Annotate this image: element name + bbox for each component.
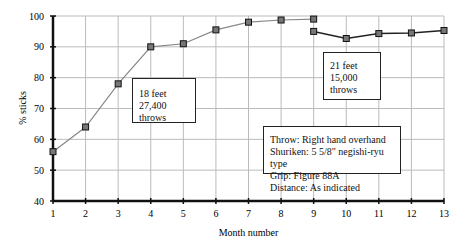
data-point-marker — [343, 36, 349, 42]
annotation-throw-info: Throw: Right hand overhand Shuriken: 5 5… — [263, 126, 401, 174]
y-tick-label: 90 — [34, 41, 44, 52]
data-point-marker — [50, 149, 56, 155]
x-tick-label: 6 — [213, 208, 218, 219]
y-tick-label: 80 — [34, 72, 44, 83]
x-tick-label: 4 — [148, 208, 153, 219]
data-point-marker — [213, 27, 219, 33]
x-tick-label: 11 — [374, 208, 384, 219]
data-point-marker — [148, 44, 154, 50]
x-tick-label: 12 — [406, 208, 416, 219]
annotation-line: 15,000 — [330, 72, 374, 84]
x-axis-label: Month number — [219, 227, 279, 238]
x-tick-label: 13 — [439, 208, 449, 219]
y-tick-label: 50 — [34, 165, 44, 176]
y-tick-label: 40 — [34, 196, 44, 207]
data-point-marker — [246, 19, 252, 25]
data-point-marker — [408, 30, 414, 36]
annotation-line: Shuriken: 5 5/8" negishi-ryu type — [270, 146, 394, 170]
y-tick-label: 60 — [34, 134, 44, 145]
data-point-marker — [278, 17, 284, 23]
x-tick-label: 9 — [311, 208, 316, 219]
data-point-marker — [115, 81, 121, 87]
x-tick-label: 3 — [116, 208, 121, 219]
annotation-line: Throw: Right hand overhand — [270, 134, 394, 146]
x-tick-label: 10 — [341, 208, 351, 219]
x-tick-label: 7 — [246, 208, 251, 219]
data-point-marker — [311, 16, 317, 22]
annotation-line: Grip: Figure 88A — [270, 170, 394, 182]
annotation-21-feet: 21 feet 15,000 throws — [323, 52, 381, 100]
annotation-line: 21 feet — [330, 60, 374, 72]
data-point-marker — [376, 31, 382, 37]
y-tick-label: 100 — [29, 11, 44, 22]
annotation-line: throws — [330, 84, 374, 96]
annotation-line: Distance: As indicated — [270, 182, 394, 194]
annotation-line: 18 feet — [139, 88, 189, 100]
annotation-line: 27,400 throws — [139, 100, 189, 124]
y-axis-label: % sticks — [17, 91, 28, 125]
y-tick-label: 70 — [34, 103, 44, 114]
x-tick-label: 8 — [279, 208, 284, 219]
line-chart: 40506070809010012345678910111213Month nu… — [0, 0, 465, 243]
data-point-marker — [441, 27, 447, 33]
x-tick-label: 5 — [181, 208, 186, 219]
x-tick-label: 1 — [51, 208, 56, 219]
x-tick-label: 2 — [83, 208, 88, 219]
annotation-18-feet: 18 feet 27,400 throws — [132, 78, 196, 123]
data-point-marker — [83, 124, 89, 130]
data-point-marker — [180, 41, 186, 47]
data-point-marker — [311, 28, 317, 34]
